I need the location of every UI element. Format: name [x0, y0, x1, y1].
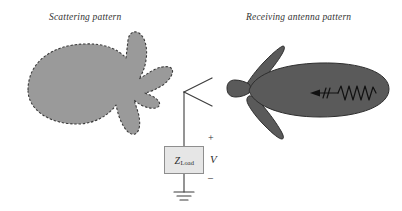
load-impedance-symbol: Z [175, 155, 181, 166]
antenna-circuit-wiring [174, 78, 212, 200]
receiving-pattern-title: Receiving antenna pattern [246, 12, 351, 22]
voltage-minus-sign: – [208, 173, 213, 183]
load-impedance-box: ZLoad [164, 146, 204, 174]
receiving-pattern-shape [227, 46, 389, 139]
voltage-symbol-label: V [210, 154, 217, 165]
voltage-plus-sign: + [208, 133, 214, 143]
v-dipole-antenna-icon [184, 78, 212, 106]
figure-canvas: Scattering pattern Receiving antenna pat… [0, 0, 402, 211]
load-impedance-label: ZLoad [165, 147, 203, 173]
scattering-pattern-title: Scattering pattern [49, 12, 121, 22]
ground-symbol-icon [174, 192, 194, 200]
scattering-pattern-shape [28, 32, 173, 135]
load-impedance-subscript: Load [181, 159, 194, 166]
patterns-layer [0, 0, 402, 211]
